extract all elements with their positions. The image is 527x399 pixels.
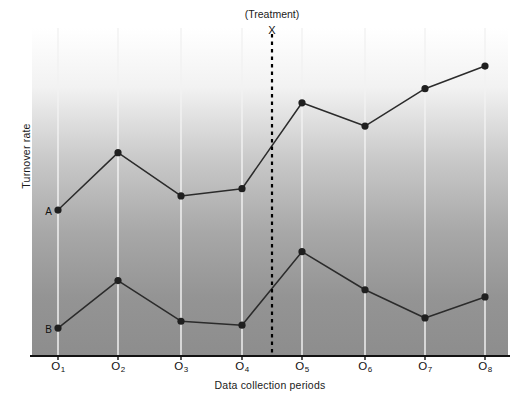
data-point-A-O7 [421,85,428,92]
series-label-B: B [45,324,52,335]
data-point-A-O4 [238,185,245,192]
data-point-A-O8 [481,62,488,69]
x-tick-label-O6: O6 [358,360,371,372]
x-tick-label-O3: O3 [174,360,187,372]
data-point-B-O6 [361,286,368,293]
x-tick-label-O2: O2 [111,360,124,372]
data-point-A-O6 [361,122,368,129]
data-point-A-O1 [54,206,61,213]
chart-plot-area [0,0,527,399]
data-point-A-O3 [177,192,184,199]
data-point-B-O3 [177,318,184,325]
data-point-B-O5 [298,248,305,255]
data-point-B-O4 [238,322,245,329]
x-tick-label-O1: O1 [51,360,64,372]
data-point-B-O2 [114,277,121,284]
data-point-B-O7 [421,314,428,321]
x-tick-label-O4: O4 [235,360,248,372]
x-tick-label-O8: O8 [478,360,491,372]
data-point-A-O5 [298,99,305,106]
data-point-B-O1 [54,325,61,332]
treatment-symbol: X [268,24,275,36]
x-tick-label-O7: O7 [418,360,431,372]
data-point-B-O8 [481,293,488,300]
plot-background [32,28,508,356]
data-point-A-O2 [114,149,121,156]
series-label-A: A [45,206,52,217]
x-axis-title: Data collection periods [32,379,508,391]
treatment-caption: (Treatment) [245,8,299,20]
chart-figure: (Treatment) X Turnover rate Data collect… [0,0,527,399]
y-axis-title: Turnover rate [20,86,32,226]
x-tick-label-O5: O5 [295,360,308,372]
